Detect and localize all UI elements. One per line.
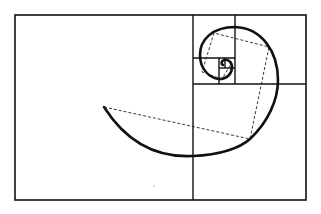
speck — [153, 185, 154, 186]
outer-rectangle — [15, 15, 306, 200]
spiral-chord-polygon — [104, 33, 269, 139]
golden-spiral — [104, 27, 278, 156]
golden-spiral-diagram — [0, 0, 321, 214]
